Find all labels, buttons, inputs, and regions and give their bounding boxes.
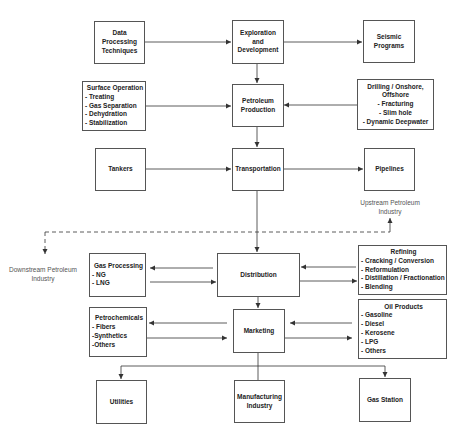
list-item: - Gasoline — [361, 311, 392, 320]
list-item: -Synthetics — [92, 332, 127, 341]
list-item: - Others — [361, 347, 386, 356]
node-drilling: Drilling / Onshore, Offshore - Fracturin… — [357, 79, 434, 130]
list-item: - Kerosene — [361, 329, 395, 338]
node-label: Pipelines — [375, 165, 404, 174]
node-label: Exploration and Development — [234, 29, 282, 55]
node-petroleum-production: Petroleum Production — [232, 84, 284, 127]
node-title: Petrochemicals — [95, 314, 143, 323]
list-item: - LNG — [92, 279, 110, 288]
list-item: - Diesel — [361, 320, 384, 329]
list-item: - Reformulation — [361, 266, 409, 275]
node-label: Distribution — [240, 271, 276, 280]
list-item: - Gas Separation — [85, 102, 137, 111]
list-item: - Cracking / Conversion — [361, 257, 434, 266]
node-label: Manufacturing Industry — [237, 393, 283, 411]
node-label: Transportation — [235, 165, 281, 174]
node-gas-station: Gas Station — [359, 378, 411, 422]
node-label: Tankers — [108, 165, 132, 174]
node-surface-operation: Surface Operation - Treating - Gas Separ… — [82, 81, 146, 131]
node-manufacturing-industry: Manufacturing Industry — [234, 380, 285, 423]
node-utilities: Utilities — [96, 380, 147, 424]
node-label: Data Processing Techniques — [97, 29, 143, 55]
list-item: - Fracturing — [377, 100, 413, 109]
node-refining: Refining - Cracking / Conversion - Refor… — [358, 245, 447, 295]
list-item: - Dehydration — [85, 110, 127, 119]
list-item: - Slim hole — [379, 109, 412, 118]
node-title: Gas Processing — [94, 262, 143, 271]
list-item: Offshore — [382, 91, 409, 100]
node-title: Oil Products — [384, 303, 423, 312]
petroleum-industry-diagram: Data Processing Techniques Exploration a… — [0, 0, 465, 442]
node-label: Marketing — [244, 327, 275, 336]
node-label: Seismic Programs — [372, 33, 406, 51]
list-item: - LPG — [361, 338, 378, 347]
list-item: - Blending — [361, 283, 393, 292]
node-label: Petroleum Production — [240, 97, 276, 115]
list-item: -Others — [92, 341, 115, 350]
node-data-processing: Data Processing Techniques — [94, 21, 145, 64]
node-oil-products: Oil Products - Gasoline - Diesel - Keros… — [358, 299, 447, 359]
node-distribution: Distribution — [217, 253, 300, 297]
list-item: - NG — [92, 271, 106, 280]
list-item: Drilling / Onshore, — [367, 83, 423, 92]
upstream-label: Upstream Petroleum Industry — [355, 198, 425, 216]
node-title: Surface Operation — [87, 84, 143, 93]
list-item: - Distillation / Fractionation — [361, 274, 445, 283]
node-seismic-programs: Seismic Programs — [363, 20, 415, 63]
list-item: - Fibers — [92, 323, 115, 332]
node-exploration-development: Exploration and Development — [232, 20, 284, 64]
downstream-label: Downstream Petroleum Industry — [8, 265, 78, 283]
list-item: - Stabilization — [85, 119, 127, 128]
connector-lines — [0, 0, 465, 442]
node-pipelines: Pipelines — [364, 148, 415, 191]
node-marketing: Marketing — [233, 309, 285, 353]
node-label: Utilities — [110, 398, 133, 407]
list-item: - Treating — [85, 93, 114, 102]
node-label: Gas Station — [367, 396, 403, 405]
node-gas-processing: Gas Processing - NG - LNG — [89, 253, 146, 297]
node-tankers: Tankers — [95, 148, 146, 191]
node-petrochemicals: Petrochemicals - Fibers -Synthetics -Oth… — [89, 307, 147, 357]
node-title: Refining — [391, 248, 417, 257]
node-transportation: Transportation — [232, 148, 284, 191]
list-item: - Dynamic Deepwater — [363, 118, 429, 127]
